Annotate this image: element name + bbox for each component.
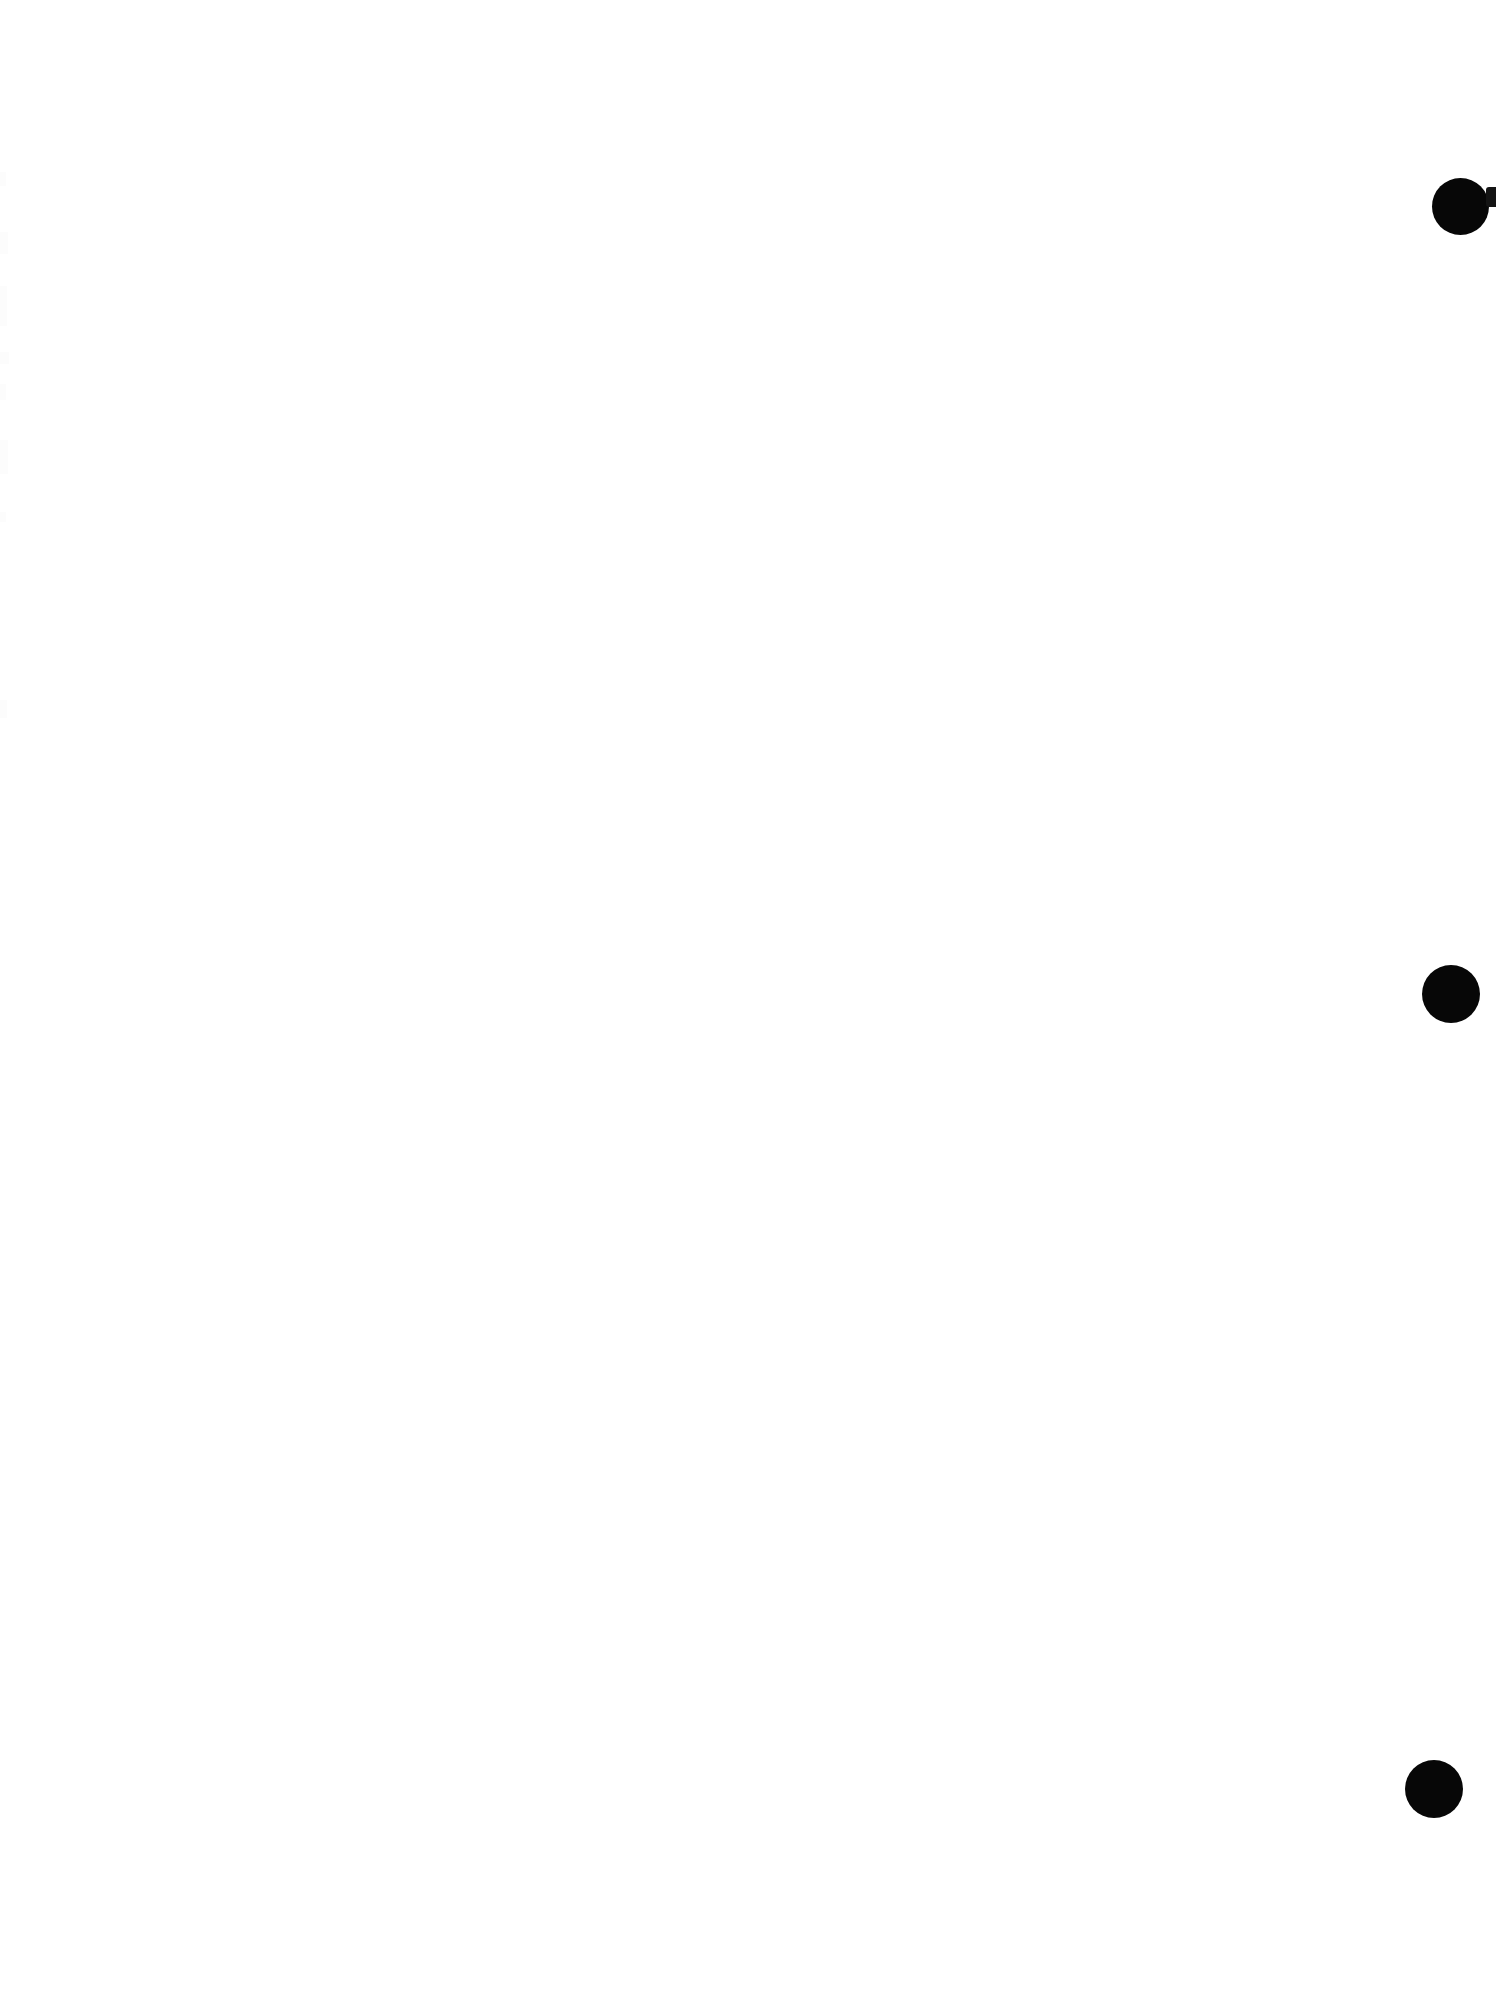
- scan-artifact: [0, 286, 7, 326]
- page-content-area: [0, 0, 1496, 1993]
- scan-artifact: [0, 440, 8, 474]
- scan-artifact: [0, 512, 6, 522]
- scan-artifact: [0, 352, 9, 364]
- scan-artifact: [0, 232, 8, 254]
- ink-mark-middle: [1422, 965, 1480, 1023]
- scan-artifact: [0, 700, 7, 718]
- bottom-clipped-text: [10, 1968, 610, 1993]
- ink-mark-bottom: [1405, 1760, 1463, 1818]
- document-page: [0, 0, 1496, 1993]
- scan-artifact: [0, 384, 6, 400]
- ink-mark-top: [1432, 178, 1489, 235]
- scan-artifact: [0, 172, 6, 186]
- edge-fragment-icon: [1486, 187, 1496, 207]
